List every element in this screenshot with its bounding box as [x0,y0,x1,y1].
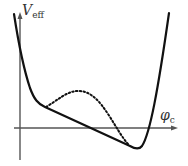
x-axis-arrow-icon [171,126,178,131]
potential-diagram [0,0,188,166]
y-axis-subscript: eff [32,10,44,20]
y-axis-symbol: V [22,2,32,18]
x-axis-label: φc [160,107,175,123]
dotted-curve [46,91,129,145]
x-axis-symbol: φ [160,107,170,123]
y-axis-label: Veff [22,2,44,18]
x-axis-subscript: c [170,115,175,125]
